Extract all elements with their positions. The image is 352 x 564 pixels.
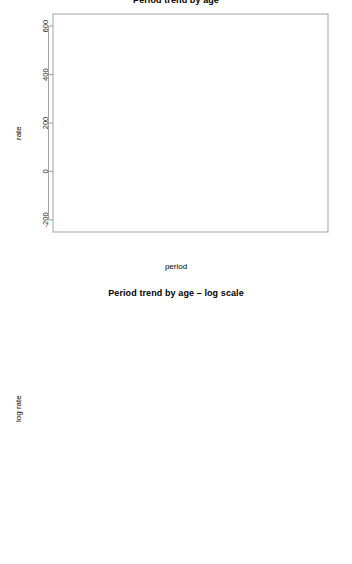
chart-canvas-log-rate <box>0 282 352 564</box>
chart-panel-log-rate: Period trend by age – log scale log rate <box>0 282 352 564</box>
figure-root: Period trend by age 6004002000-200 rate … <box>0 0 352 564</box>
y-axis-label-rate: rate <box>14 126 23 140</box>
chart-canvas-rate: 6004002000-200 <box>0 0 352 282</box>
x-axis-label-period: period <box>0 262 352 271</box>
y-axis-label-log-rate: log rate <box>14 395 23 422</box>
chart-panel-rate: Period trend by age 6004002000-200 rate … <box>0 0 352 282</box>
